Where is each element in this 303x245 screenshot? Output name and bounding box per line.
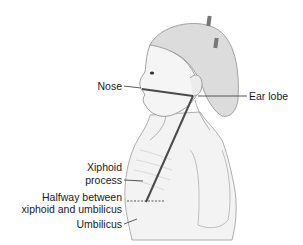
hair-clip-top (206, 16, 211, 26)
torso-shape (125, 112, 236, 240)
label-nose: Nose (86, 80, 122, 92)
label-halfway-line2: xiphoid and umbilicus (0, 203, 122, 215)
label-xiphoid-line1: Xiphoid (50, 161, 122, 173)
label-ear-lobe: Ear lobe (249, 90, 288, 102)
label-halfway-line1: Halfway between (0, 191, 122, 203)
label-xiphoid-line2: process (50, 174, 122, 186)
label-umbilicus: Umbilicus (40, 218, 122, 230)
eye (150, 71, 154, 74)
nose-leader (124, 86, 141, 88)
